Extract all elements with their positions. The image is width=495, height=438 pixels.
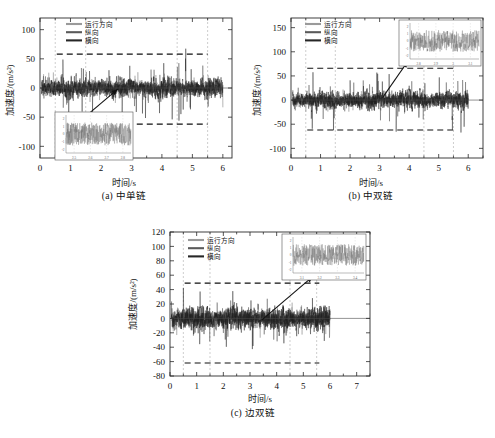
x-tick-label: 6 (466, 163, 471, 173)
inset-x-tick-label: 2.9 (434, 62, 439, 66)
y-tick-label: 20 (156, 299, 166, 309)
x-tick-label: 2 (99, 163, 104, 173)
x-tick-label: 4 (160, 163, 165, 173)
axis-title-y-a: 加速度/(m/s²) (4, 64, 15, 115)
y-tick-label: -20 (153, 328, 165, 338)
y-tick-label: -40 (153, 342, 165, 352)
inset-y-tick-label: 1 (407, 32, 409, 36)
y-tick-label: 0 (282, 95, 287, 105)
y-tick-label: -100 (19, 142, 36, 152)
x-tick-label: 6 (221, 163, 226, 173)
x-tick-label: 5 (301, 381, 306, 391)
panel-a: 0123456100500-50-100运行方向纵向横向2.52.62.72.8… (0, 0, 248, 200)
legend-label: 横向 (207, 252, 221, 261)
legend-label: 运行方向 (207, 236, 235, 245)
axis-title-y-c: 加速度/(m/s²) (127, 278, 138, 329)
inset-x-tick-label: 2.8 (417, 62, 422, 66)
y-tick-label: 50 (277, 71, 287, 81)
inset-x-tick-label: 3.4 (353, 276, 358, 280)
inset-x-tick-label: 3.2 (318, 276, 323, 280)
inset-x-tick-label: 3 (452, 62, 454, 66)
y-tick-label: 0 (31, 83, 36, 93)
y-tick-label: 150 (273, 23, 287, 33)
inset-x-tick-label: 2.8 (121, 156, 126, 160)
inset-x-tick-label: 2.6 (88, 156, 93, 160)
inset-y-tick-label: 1 (63, 125, 65, 129)
y-tick-label: 50 (26, 54, 36, 64)
y-tick-label: -80 (153, 371, 165, 381)
inset-y-tick-label: 1 (290, 246, 292, 250)
x-tick-label: 1 (318, 163, 323, 173)
panel-b-plot: 0123456150100500-50-100运行方向纵向横向2.82.933.… (247, 0, 495, 200)
inset-x-tick-label: 3.3 (335, 276, 340, 280)
y-tick-label: -100 (270, 144, 287, 154)
panel-caption-c: (c) 边双链 (122, 405, 384, 419)
x-tick-label: 1 (68, 163, 73, 173)
x-tick-label: 3 (129, 163, 134, 173)
inset-y-tick-label: 2 (407, 25, 409, 29)
panel-caption-a: (a) 中单链 (0, 188, 248, 202)
x-tick-label: 0 (289, 163, 294, 173)
figure-root: 0123456100500-50-100运行方向纵向横向2.52.62.72.8… (0, 0, 495, 438)
x-tick-label: 2 (348, 163, 353, 173)
x-tick-label: 2 (221, 381, 226, 391)
axis-title-y-b: 加速度/(m/s²) (251, 64, 262, 115)
y-tick-label: 40 (156, 285, 166, 295)
inset-y-tick-label: -1 (289, 261, 292, 265)
panel-c-plot: 01234567120100806040200-20-40-60-80运行方向纵… (122, 212, 384, 422)
x-tick-label: 3 (248, 381, 253, 391)
y-tick-label: 60 (156, 270, 166, 280)
x-tick-label: 4 (274, 381, 279, 391)
inset-y-tick-label: 0 (290, 253, 292, 257)
y-tick-label: -60 (153, 357, 165, 367)
inset-y-tick-label: 0 (407, 39, 409, 43)
legend-label: 纵向 (324, 28, 338, 36)
inset-x-tick-label: 2.5 (72, 156, 77, 160)
y-tick-label: 120 (152, 227, 166, 237)
y-tick-label: 100 (273, 47, 287, 57)
inset-x-tick-label: 3.1 (468, 62, 473, 66)
axis-title-x-a: 时间/s (112, 177, 137, 188)
inset-y-tick-label: -1 (62, 140, 65, 144)
axis-title-x-b: 时间/s (359, 177, 384, 188)
inset-y-tick-label: -2 (289, 268, 292, 272)
y-tick-label: -50 (274, 119, 286, 129)
inset-x-tick-label: 2.7 (105, 156, 110, 160)
axis-title-x-c: 时间/s (248, 393, 273, 404)
inset-y-tick-label: -2 (406, 54, 409, 58)
inset-x-tick-label: 3.1 (300, 276, 305, 280)
y-tick-label: 80 (156, 256, 166, 266)
x-tick-label: 7 (354, 381, 359, 391)
y-tick-label: 0 (161, 314, 166, 324)
panel-c: 01234567120100806040200-20-40-60-80运行方向纵… (122, 212, 384, 422)
inset-y-tick-label: 0 (63, 132, 65, 136)
legend-label: 运行方向 (324, 20, 352, 29)
panel-a-plot: 0123456100500-50-100运行方向纵向横向2.52.62.72.8… (0, 0, 248, 200)
x-tick-label: 6 (328, 381, 333, 391)
legend-label: 纵向 (85, 28, 99, 36)
legend-label: 纵向 (207, 244, 221, 252)
y-tick-label: 100 (152, 242, 166, 252)
x-tick-label: 3 (377, 163, 382, 173)
x-tick-label: 5 (436, 163, 441, 173)
x-tick-label: 0 (38, 163, 43, 173)
x-tick-label: 0 (168, 381, 173, 391)
legend-label: 横向 (324, 36, 338, 45)
y-tick-label: -50 (23, 112, 35, 122)
panel-caption-b: (b) 中双链 (247, 188, 495, 202)
inset-y-tick-label: 2 (290, 239, 292, 243)
panel-b: 0123456150100500-50-100运行方向纵向横向2.82.933.… (247, 0, 495, 200)
x-tick-label: 4 (407, 163, 412, 173)
legend-label: 横向 (85, 36, 99, 45)
inset-y-tick-label: -1 (406, 47, 409, 51)
inset-y-tick-label: 2 (63, 117, 65, 121)
y-tick-label: 100 (22, 25, 36, 35)
legend-label: 运行方向 (85, 20, 113, 29)
x-tick-label: 1 (194, 381, 199, 391)
x-tick-label: 5 (190, 163, 195, 173)
inset-y-tick-label: -2 (62, 148, 65, 152)
